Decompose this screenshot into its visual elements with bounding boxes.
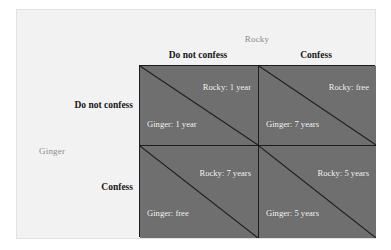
payoff-matrix-figure: Rocky Ginger Do not confess Confess Do n… (0, 0, 391, 250)
row-player-label: Ginger (39, 146, 65, 156)
matrix-cell: Rocky: 1 year Ginger: 1 year (140, 66, 258, 145)
column-player-label: Rocky (139, 34, 375, 44)
payoff-rocky: Rocky: 7 years (199, 168, 251, 178)
payoff-ginger: Ginger: 7 years (266, 119, 319, 129)
payoff-rocky: Rocky: 1 year (203, 82, 251, 92)
row-header-confess: Confess (37, 182, 133, 192)
payoff-ginger: Ginger: 1 year (147, 119, 197, 129)
column-header-confess: Confess (257, 50, 375, 60)
cell-diagonal-divider-icon (140, 66, 258, 145)
column-header-do-not-confess: Do not confess (139, 50, 257, 60)
matrix-cell: Rocky: 7 years Ginger: free (140, 145, 258, 238)
cell-diagonal-divider-icon (259, 66, 376, 145)
row-header-do-not-confess: Do not confess (37, 100, 133, 110)
payoff-ginger: Ginger: 5 years (266, 208, 319, 218)
payoff-rocky: Rocky: 5 years (317, 168, 369, 178)
figure-page-surface: Rocky Ginger Do not confess Confess Do n… (16, 9, 376, 239)
matrix-cell: Rocky: 5 years Ginger: 5 years (258, 145, 376, 238)
payoff-matrix-grid: Rocky: 1 year Ginger: 1 year Rocky: free… (139, 65, 375, 237)
matrix-cell: Rocky: free Ginger: 7 years (258, 66, 376, 145)
cell-diagonal-divider-icon (259, 146, 376, 238)
payoff-ginger: Ginger: free (147, 208, 189, 218)
payoff-rocky: Rocky: free (329, 82, 369, 92)
cell-diagonal-divider-icon (140, 146, 258, 238)
